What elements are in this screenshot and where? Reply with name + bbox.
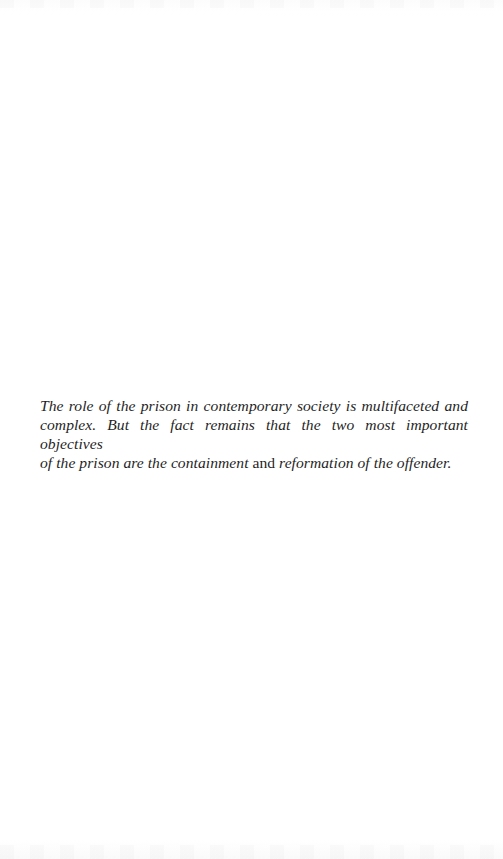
epigraph-line-1-text: The role of the prison in contemporary s… [40,397,468,414]
epigraph-line-1: The role of the prison in contemporary s… [40,396,468,415]
epigraph-line-2-text: complex. But the fact remains that the t… [40,416,468,452]
epigraph-line-3-italic-b: reformation of the offender. [279,454,451,471]
epigraph-line-2: complex. But the fact remains that the t… [40,415,468,453]
document-page: The role of the prison in contemporary s… [0,0,503,859]
epigraph-line-3-roman-and: and [249,454,280,471]
page-top-bleed-through [0,0,503,8]
epigraph-quote: The role of the prison in contemporary s… [40,396,468,472]
page-bottom-bleed-through [0,845,503,859]
epigraph-line-3-italic-a: of the prison are the containment [40,454,249,471]
epigraph-line-3: of the prison are the containment and re… [40,453,468,472]
